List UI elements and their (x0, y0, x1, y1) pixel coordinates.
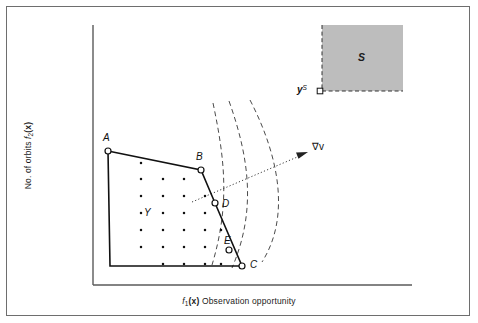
contour-arc-3 (250, 100, 279, 262)
vertex-label-C: C (250, 259, 257, 270)
y-axis-caption-text: No. of orbits (23, 141, 33, 189)
ys-point-marker (317, 88, 323, 94)
lattice-point (162, 178, 165, 181)
lattice-point (183, 246, 186, 249)
y-axis-label: No. of orbits f2(x) (23, 76, 34, 236)
ys-point-label: yS (297, 84, 307, 95)
x-axis-caption-text: Observation opportunity (202, 296, 296, 306)
figure-root: A B D E C Y S yS ∇v f1(x) Observation op… (0, 0, 478, 323)
lattice-point (140, 195, 143, 198)
lattice-point (183, 263, 186, 266)
vertex-label-E: E (224, 235, 231, 246)
ys-superscript: S (303, 84, 307, 91)
vertex-marker-B (198, 167, 204, 173)
lattice-point (204, 212, 207, 215)
lattice-point (220, 229, 223, 232)
gradient-label: ∇v (312, 141, 324, 152)
lattice-point (162, 246, 165, 249)
s-region-label: S (358, 51, 365, 63)
lattice-point (183, 195, 186, 198)
vertex-label-D: D (222, 198, 229, 209)
lattice-point (183, 178, 186, 181)
vertex-marker-A (105, 148, 111, 154)
lattice-point (140, 246, 143, 249)
gradient-arrow-head (296, 152, 308, 159)
lattice-point (140, 178, 143, 181)
vertex-marker-C (239, 263, 245, 269)
x-axis-function-arg: (x) (189, 296, 200, 306)
lattice-point (140, 229, 143, 232)
lattice-point (183, 212, 186, 215)
y-axis-function-subscript: 2 (27, 133, 34, 137)
lattice-point (140, 162, 143, 165)
diagram-canvas (0, 0, 478, 323)
vertex-label-A: A (103, 132, 110, 143)
lattice-point (162, 263, 165, 266)
lattice-point (140, 212, 143, 215)
lattice-point (204, 195, 207, 198)
y-axis-function-arg: (x) (23, 122, 33, 133)
x-axis-label: f1(x) Observation opportunity (0, 296, 478, 307)
lattice-point (204, 263, 207, 266)
lattice-point (162, 229, 165, 232)
vertex-marker-E (226, 247, 232, 253)
lattice-point (204, 229, 207, 232)
region-label-Y: Y (144, 207, 151, 218)
vertex-label-B: B (196, 151, 203, 162)
vertex-marker-D (212, 200, 218, 206)
lattice-point (162, 195, 165, 198)
lattice-point (183, 229, 186, 232)
lattice-point (220, 263, 223, 266)
lattice-point (162, 212, 165, 215)
y-axis-function-letter: f (23, 136, 33, 139)
lattice-point (204, 246, 207, 249)
